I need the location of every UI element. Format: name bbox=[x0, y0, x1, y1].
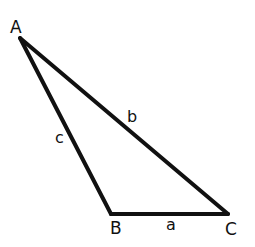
vertex-label-b: B bbox=[110, 218, 122, 238]
side-label-c: c bbox=[55, 128, 64, 147]
side-c-line bbox=[20, 38, 111, 214]
side-label-b: b bbox=[127, 107, 137, 126]
side-b-line bbox=[20, 38, 228, 214]
vertex-label-a: A bbox=[10, 17, 22, 37]
side-label-a: a bbox=[166, 215, 176, 234]
vertex-label-c: C bbox=[225, 219, 237, 239]
triangle-diagram: A B C a b c bbox=[0, 0, 255, 247]
